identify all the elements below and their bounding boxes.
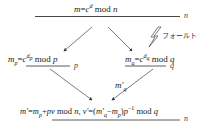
fault-label: フォールト bbox=[162, 30, 197, 40]
left-line-label: p bbox=[74, 61, 78, 70]
left-equation: mp=cdp mod p bbox=[8, 54, 58, 64]
right-equation: mq=cdq mod q bbox=[125, 54, 175, 64]
arrow-left-to-bottom bbox=[50, 69, 92, 100]
edge-label-mq-prime: m′q bbox=[115, 80, 126, 90]
lightning-bolt-icon bbox=[149, 27, 161, 47]
arrow-top-to-left bbox=[64, 27, 92, 51]
top-equation: m=cd mod n bbox=[74, 4, 118, 14]
bottom-line-label: n bbox=[184, 114, 188, 123]
right-line-label: q bbox=[170, 61, 174, 70]
bottom-equation: m′=mp+pv mod n, v′=(m′q−mp)p−1 mod q bbox=[20, 106, 158, 116]
top-line-label: n bbox=[184, 11, 188, 20]
arrow-top-to-right bbox=[108, 27, 132, 51]
